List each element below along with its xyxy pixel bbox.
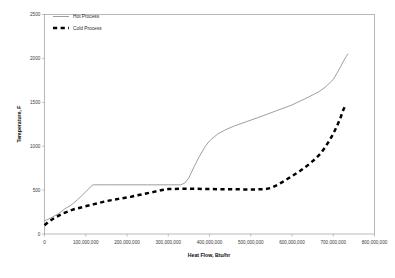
x-axis-title: Heat Flow, Btu/hr [188, 252, 230, 258]
x-tick-label: 100,000,000 [73, 240, 99, 245]
x-tick-label: 300,000,000 [155, 240, 181, 245]
chart-background [0, 0, 395, 278]
x-axis-tick-labels: 0100,000,000200,000,000300,000,000400,00… [43, 240, 387, 245]
chart-container: 05001000150020002500 0100,000,000200,000… [0, 0, 395, 278]
y-tick-label: 0 [38, 232, 41, 237]
x-tick-label: 800,000,000 [362, 240, 388, 245]
x-tick-label: 400,000,000 [197, 240, 223, 245]
x-tick-label: 200,000,000 [114, 240, 140, 245]
y-tick-label: 1000 [30, 144, 41, 149]
x-tick-label: 600,000,000 [279, 240, 305, 245]
temperature-heat-flow-chart: 05001000150020002500 0100,000,000200,000… [0, 0, 395, 278]
x-tick-label: 500,000,000 [238, 240, 264, 245]
y-tick-label: 2000 [30, 56, 41, 61]
y-tick-label: 500 [33, 188, 41, 193]
y-axis-title: Temperature, F [16, 105, 22, 142]
x-tick-label: 0 [43, 240, 46, 245]
legend-label-cold-process: Cold Process [73, 26, 102, 31]
y-tick-label: 1500 [30, 100, 41, 105]
legend-label-hot-process: Hot Process [73, 14, 100, 19]
x-tick-label: 700,000,000 [320, 240, 346, 245]
y-tick-label: 2500 [30, 12, 41, 17]
